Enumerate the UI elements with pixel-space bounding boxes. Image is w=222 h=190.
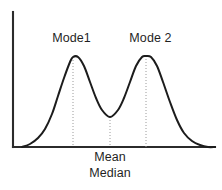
- density-curve: [22, 56, 215, 147]
- median-label: Median: [40, 167, 180, 180]
- mode2-label: Mode 2: [79, 32, 222, 45]
- bimodal-distribution-figure: Mode1 Mode 2 Mean Median: [0, 0, 222, 190]
- mean-label: Mean: [40, 151, 180, 164]
